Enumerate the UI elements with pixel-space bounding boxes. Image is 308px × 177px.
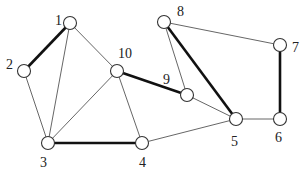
node-3 <box>42 137 55 150</box>
node-6 <box>274 113 287 126</box>
edge-8-5 <box>164 22 236 119</box>
node-9 <box>181 89 194 102</box>
node-2 <box>18 65 31 78</box>
node-label-2: 2 <box>6 57 13 72</box>
edge-4-5 <box>142 119 236 143</box>
node-5 <box>230 113 243 126</box>
node-10 <box>111 65 124 78</box>
graph-diagram: 12345678910 <box>0 0 308 177</box>
edge-10-3 <box>48 71 117 143</box>
edge-8-7 <box>164 22 280 45</box>
node-7 <box>274 39 287 52</box>
edges-layer <box>24 22 280 143</box>
node-label-1: 1 <box>55 13 62 28</box>
edge-1-2 <box>24 23 70 71</box>
edge-10-9 <box>117 71 187 95</box>
node-label-5: 5 <box>231 134 238 149</box>
node-label-3: 3 <box>40 155 47 170</box>
node-label-6: 6 <box>275 130 282 145</box>
node-label-9: 9 <box>163 72 170 87</box>
node-1 <box>64 17 77 30</box>
node-label-8: 8 <box>177 4 184 19</box>
edge-2-3 <box>24 71 48 143</box>
node-label-10: 10 <box>118 46 132 61</box>
cropped-caption <box>70 168 210 177</box>
node-4 <box>136 137 149 150</box>
node-label-7: 7 <box>292 40 299 55</box>
edge-1-10 <box>70 23 117 71</box>
node-8 <box>158 16 171 29</box>
edge-10-4 <box>117 71 142 143</box>
